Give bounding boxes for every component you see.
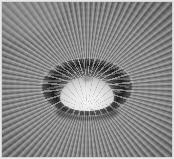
- cupola-dome: [60, 77, 114, 111]
- photo-canvas: [2, 2, 172, 157]
- cupola-apex-oculus: [83, 77, 92, 82]
- cupola-meridian-ribs: [60, 77, 114, 111]
- drum-halo: [2, 2, 66, 42]
- photograph: Domed ceiling interior, upward fisheye v…: [0, 0, 174, 159]
